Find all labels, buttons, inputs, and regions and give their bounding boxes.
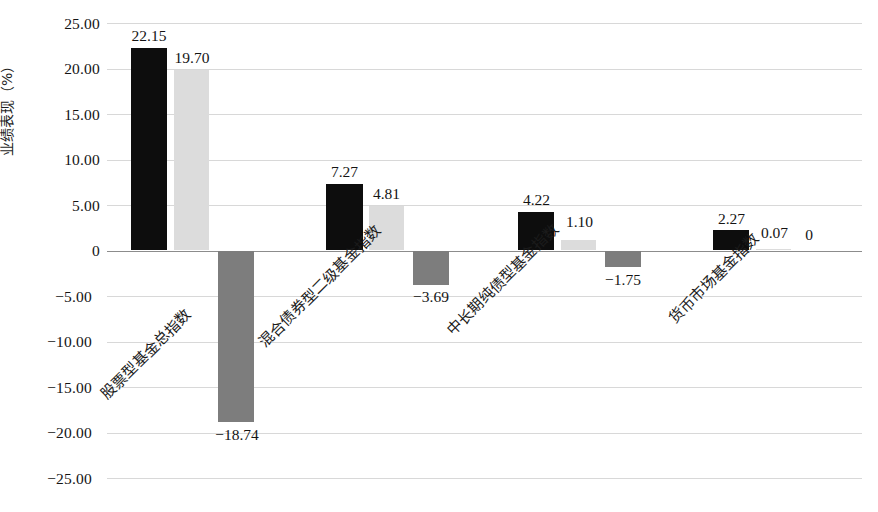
value-label-g0-s2: −18.74: [206, 427, 268, 443]
bar-g0-s1: [174, 70, 209, 250]
ytick-label-neg25: −25.00: [22, 471, 92, 487]
gridline-20: [107, 69, 862, 70]
ytick-label-15: 15.00: [30, 107, 100, 123]
value-label-g1-s1: 4.81: [358, 186, 415, 202]
gridline-25: [107, 23, 862, 24]
bar-g2-s1: [561, 240, 596, 250]
ytick-label-neg20: −20.00: [22, 425, 92, 441]
ytick-label-neg5: −5.00: [22, 289, 92, 305]
ytick-label-10: 10.00: [30, 152, 100, 168]
value-label-g2-s0: 4.22: [508, 192, 565, 208]
value-label-g0-s0: 22.15: [119, 28, 179, 44]
gridline-10: [107, 160, 862, 161]
ytick-label-neg10: −10.00: [22, 334, 92, 350]
bar-g1-s2: [413, 251, 449, 285]
gridline-15: [107, 114, 862, 115]
gridline-5: [107, 205, 862, 206]
value-label-g0-s1: 19.70: [162, 50, 222, 66]
value-label-g1-s0: 7.27: [316, 164, 373, 180]
y-axis-title: 业绩表现（%）: [0, 0, 16, 156]
ytick-label-neg15: −15.00: [22, 380, 92, 396]
bar-g2-s2: [605, 251, 641, 267]
value-label-g2-s2: −1.75: [593, 272, 653, 288]
ytick-label-20: 20.00: [30, 61, 100, 77]
bar-g3-s1: [756, 249, 791, 250]
bar-g0-s0: [131, 48, 167, 250]
value-label-g2-s1: 1.10: [551, 214, 608, 230]
value-label-g1-s2: −3.69: [401, 289, 461, 305]
ytick-label-25: 25.00: [30, 16, 100, 32]
bar-g0-s2: [218, 251, 254, 422]
ytick-label-0: 0: [30, 243, 100, 259]
ytick-label-5: 5.00: [30, 198, 100, 214]
gridline-neg25: [107, 478, 862, 479]
bar-chart: 25.00 20.00 15.00 10.00 5.00 0 −5.00 −10…: [0, 0, 878, 512]
value-label-g3-s2: 0: [794, 227, 824, 243]
